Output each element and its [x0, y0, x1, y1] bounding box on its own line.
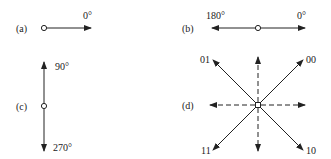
angle-label-0: 0°	[297, 10, 306, 21]
panel-b-label: (b)	[182, 23, 194, 35]
panel-b: (b) 180° 0°	[182, 10, 306, 35]
angle-label-180: 180°	[206, 10, 225, 21]
vector-arrow-nw	[213, 60, 256, 103]
code-label-11: 11	[201, 145, 211, 156]
panel-c-label: (c)	[16, 101, 27, 113]
vector-arrow-ne	[260, 60, 303, 103]
panel-a-label: (a)	[16, 23, 27, 35]
origin-point	[255, 25, 260, 30]
code-label-01: 01	[200, 54, 210, 65]
code-label-10: 10	[306, 145, 316, 156]
origin-point	[256, 103, 261, 108]
panel-c: (c) 90° 270°	[16, 61, 72, 153]
angle-label-90: 90°	[55, 61, 69, 72]
origin-point	[41, 25, 46, 30]
code-label-00: 00	[306, 54, 316, 65]
origin-point	[41, 103, 46, 108]
panel-a: (a) 0°	[16, 10, 92, 35]
panel-d: (d) 01 00 11 10	[182, 54, 316, 156]
angle-label-270: 270°	[53, 142, 72, 153]
phase-diagram: (a) 0° (b) 180° 0° (c) 90° 270° (d) 01	[0, 0, 331, 159]
vector-arrow-sw	[213, 107, 256, 150]
angle-label-0: 0°	[83, 10, 92, 21]
vector-arrow-se	[260, 107, 303, 150]
panel-d-label: (d)	[182, 100, 194, 112]
